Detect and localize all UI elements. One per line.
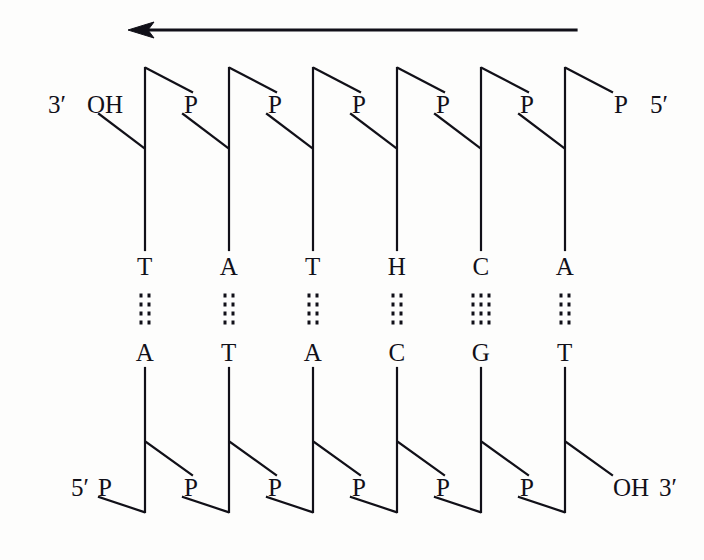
bottom-right-prime-label: 3′ (659, 475, 677, 500)
bottom-left-prime-label: 5′ (71, 475, 89, 500)
hydrogen-bond-dot-column (140, 294, 143, 325)
top-base-3: T (305, 254, 321, 279)
phosphodiester-top-right-1 (146, 68, 192, 92)
hydrogen-bond-dot (232, 312, 235, 316)
bottom-right-hydroxyl-label: OH (613, 475, 649, 500)
phosphodiester-bottom-right-1 (146, 442, 192, 475)
hydrogen-bond-dot (480, 312, 483, 316)
hydrogen-bond-dot (472, 303, 475, 307)
hydrogen-bond-dot (400, 294, 403, 298)
top-left-prime-label: 3′ (48, 92, 66, 117)
hydrogen-bond-dot (488, 321, 491, 325)
hydrogen-bond-dot (148, 303, 151, 307)
dna-structure-figure: TATHCAATACGTPPPPPPPPPP3′OHP5′5′POH3′ (0, 0, 704, 560)
top-phosphate-label-4: P (436, 92, 450, 117)
bottom-base-6: T (557, 340, 573, 365)
hydrogen-bond-dot-column (392, 294, 395, 325)
top-base-2: A (220, 254, 239, 279)
top-left-hydroxyl-label: OH (87, 92, 123, 117)
bottom-phosphate-label-3: P (352, 475, 366, 500)
hydrogen-bond-dot (488, 312, 491, 316)
hydrogen-bond-dot (392, 294, 395, 298)
bottom-phosphate-label-2: P (268, 475, 282, 500)
hydrogen-bond-dot (232, 294, 235, 298)
phosphodiester-top-left-1 (99, 114, 144, 148)
phosphodiester-top-left-3 (267, 114, 312, 148)
top-base-6: A (556, 254, 575, 279)
hydrogen-bond-dot (316, 321, 319, 325)
hydrogen-bond-dot (480, 303, 483, 307)
phosphodiester-bottom-right-3 (314, 442, 360, 475)
phosphodiester-top-right-4 (398, 68, 444, 92)
hydrogen-bond-dot-column (148, 294, 151, 325)
phosphodiester-top-right-2 (230, 68, 276, 92)
hydrogen-bond-dot-column (480, 294, 483, 325)
top-base-1: T (137, 254, 153, 279)
hydrogen-bond-3 (308, 294, 319, 325)
bottom-base-3: A (304, 340, 323, 365)
hydrogen-bond-dot (308, 321, 311, 325)
hydrogen-bond-dot (472, 312, 475, 316)
hydrogen-bond-dot (232, 303, 235, 307)
top-base-5: C (472, 254, 489, 279)
hydrogen-bond-dot (316, 312, 319, 316)
top-phosphate-label-5: P (520, 92, 534, 117)
hydrogen-bond-dot-column (568, 294, 571, 325)
hydrogen-bond-dot (560, 321, 563, 325)
hydrogen-bond-dot (392, 303, 395, 307)
bottom-phosphate-label-5: P (520, 475, 534, 500)
hydrogen-bond-dot (308, 312, 311, 316)
top-phosphate-label-2: P (268, 92, 282, 117)
hydrogen-bond-dot (488, 303, 491, 307)
hydrogen-bond-dot (568, 321, 571, 325)
hydrogen-bond-dot-column (224, 294, 227, 325)
phosphodiester-top-left-5 (435, 114, 480, 148)
hydrogen-bond-dot (148, 294, 151, 298)
hydrogen-bond-dot (480, 294, 483, 298)
hydrogen-bond-dot (148, 312, 151, 316)
top-right-prime-label: 5′ (650, 92, 668, 117)
hydrogen-bond-dot-column (488, 294, 491, 325)
phosphodiester-top-left-2 (183, 114, 228, 148)
hydrogen-bond-dot (400, 321, 403, 325)
hydrogen-bond-dot (140, 294, 143, 298)
hydrogen-bond-dot (480, 321, 483, 325)
top-phosphate-label-3: P (352, 92, 366, 117)
phosphodiester-top-right-5 (482, 68, 528, 92)
hydrogen-bond-6 (560, 294, 571, 325)
hydrogen-bond-dot (400, 303, 403, 307)
top-base-4: H (388, 254, 407, 279)
hydrogen-bond-dot (140, 321, 143, 325)
hydrogen-bond-dot-column (472, 294, 475, 325)
hydrogen-bond-dot (568, 303, 571, 307)
top-phosphate-label-1: P (184, 92, 198, 117)
hydrogen-bond-dot (568, 312, 571, 316)
hydrogen-bond-dot (224, 312, 227, 316)
bottom-phosphate-label-4: P (436, 475, 450, 500)
hydrogen-bond-dot (140, 303, 143, 307)
bottom-left-phosphate-label: P (98, 475, 112, 500)
phosphodiester-bottom-right-2 (230, 442, 276, 475)
hydrogen-bond-dot (400, 312, 403, 316)
bottom-base-5: G (472, 340, 491, 365)
hydrogen-bond-dot (140, 312, 143, 316)
hydrogen-bond-2 (224, 294, 235, 325)
hydrogen-bond-dot (472, 321, 475, 325)
hydrogen-bond-dot (316, 303, 319, 307)
phosphodiester-bottom-right-4 (398, 442, 444, 475)
phosphodiester-top-left-4 (351, 114, 396, 148)
phosphodiester-top-left-6 (519, 114, 564, 148)
hydrogen-bond-dot (232, 321, 235, 325)
phosphodiester-top-right-6 (566, 68, 612, 92)
hydrogen-bond-dot (560, 294, 563, 298)
hydrogen-bond-1 (140, 294, 151, 325)
hydrogen-bond-dot-column (232, 294, 235, 325)
hydrogen-bond-dot (488, 294, 491, 298)
hydrogen-bond-4 (392, 294, 403, 325)
hydrogen-bond-dot-column (560, 294, 563, 325)
top-right-phosphate-label: P (614, 92, 628, 117)
phosphodiester-bottom-right-5 (482, 442, 528, 475)
bottom-base-1: A (136, 340, 155, 365)
hydrogen-bond-dot-column (308, 294, 311, 325)
hydrogen-bond-5 (472, 294, 491, 325)
